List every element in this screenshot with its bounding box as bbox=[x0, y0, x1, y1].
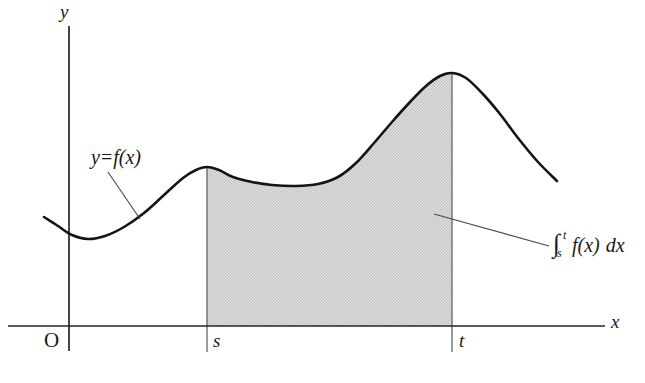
curve-equation-lhs: y bbox=[91, 146, 100, 168]
figure-canvas bbox=[0, 0, 645, 383]
tick-label-t: t bbox=[459, 331, 464, 350]
y-axis-label: y bbox=[60, 2, 68, 21]
curve-equation-label: y=f(x) bbox=[91, 147, 141, 167]
curve-equation-equals: = bbox=[100, 146, 113, 168]
tick-label-s: s bbox=[213, 331, 220, 350]
x-axis-label: x bbox=[611, 312, 619, 331]
integral-upper-limit: t bbox=[563, 229, 566, 241]
integral-expression-label: ∫ t s f(x) dx bbox=[553, 230, 625, 260]
integral-integrand: f(x) bbox=[572, 235, 600, 255]
origin-label: O bbox=[44, 330, 59, 351]
integral-sign-group: ∫ t s bbox=[553, 230, 569, 260]
integral-figure: y x O s t y=f(x) ∫ t s f(x) dx bbox=[0, 0, 645, 383]
curve-label-leader-line bbox=[108, 172, 140, 219]
shaded-area-under-curve bbox=[207, 73, 452, 326]
curve-equation-rhs: f(x) bbox=[113, 146, 141, 168]
integral-differential: dx bbox=[606, 235, 625, 255]
integral-lower-limit: s bbox=[557, 247, 562, 259]
